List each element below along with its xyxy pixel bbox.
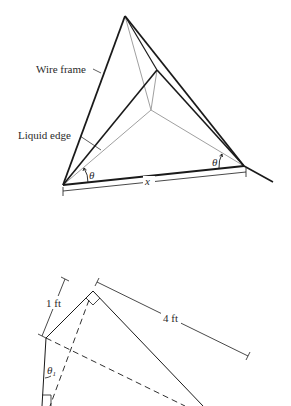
x-dimension-label: x [144,175,150,187]
wire-frame-tail [244,166,273,182]
four-ft-tick-left [95,278,99,286]
one-ft-tick-top [61,277,69,281]
wire-frame-left-edge [63,16,125,185]
top-figure: Wire frame Liquid edge θ θ x [18,16,273,196]
right-angle-marker-bottom [42,395,51,406]
one-ft-tick-bottom [38,334,46,338]
theta1-arc [45,376,51,378]
theta-left-arc [84,168,88,183]
vertical-side-line [42,338,46,406]
four-ft-label: 4 ft [163,312,178,324]
inner-edge-top [125,16,151,110]
liquid-edge-right [157,70,244,166]
long-side-line [93,291,203,406]
dashed-diagonal [46,338,185,406]
wire-frame-label: Wire frame [36,63,86,75]
liquid-edge-left [63,70,157,185]
diagram-canvas: Wire frame Liquid edge θ θ x 1 ft 4 ft [0,0,291,406]
theta1-subscript: 1 [52,370,56,378]
theta-right-arc [219,154,222,168]
theta-right-label: θ [212,156,218,168]
theta-left-label: θ [89,169,95,181]
wire-frame-leader [93,69,101,73]
liquid-edge-top [125,16,157,70]
one-ft-label: 1 ft [46,297,61,309]
liquid-edge-label: Liquid edge [18,129,71,141]
bottom-figure: 1 ft 4 ft θ1 [38,277,250,406]
wire-frame-right-edge [125,16,244,166]
four-ft-tick-right [246,352,250,360]
inner-edge-right [151,110,244,166]
dashed-perpendicular [50,300,89,406]
theta1-label: θ1 [47,364,56,378]
